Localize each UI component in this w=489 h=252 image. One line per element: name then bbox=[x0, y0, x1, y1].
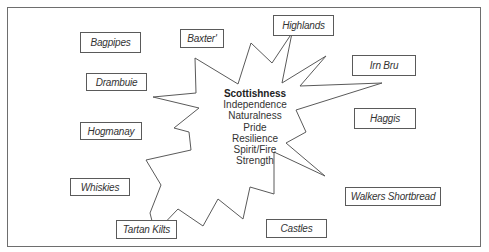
concept-label: Castles bbox=[281, 223, 313, 234]
concept-box-highlands: Highlands bbox=[273, 15, 334, 36]
attribute-spirit-fire: Spirit/Fire bbox=[200, 144, 310, 155]
concept-label: Bagpipes bbox=[90, 37, 130, 48]
concept-label: Haggis bbox=[370, 113, 400, 124]
attribute-pride: Pride bbox=[200, 122, 310, 133]
concept-label: Hogmanay bbox=[88, 126, 135, 137]
concept-box-baxter: Baxter' bbox=[180, 29, 224, 48]
attribute-strength: Strength bbox=[200, 155, 310, 166]
concept-label: Baxter' bbox=[187, 33, 216, 44]
concept-box-bagpipes: Bagpipes bbox=[80, 32, 141, 53]
concept-label: Whiskies bbox=[81, 182, 119, 193]
attribute-independence: Independence bbox=[200, 99, 310, 110]
concept-box-whiskies: Whiskies bbox=[70, 178, 130, 196]
concept-box-tartan-kilts: Tartan Kilts bbox=[116, 220, 177, 239]
central-title: Scottishness bbox=[200, 88, 310, 99]
concept-label: Walkers Shortbread bbox=[351, 191, 436, 202]
concept-box-irn-bru: Irn Bru bbox=[352, 55, 416, 76]
central-concept: Scottishness Independence Naturalness Pr… bbox=[200, 88, 310, 166]
attribute-naturalness: Naturalness bbox=[200, 110, 310, 121]
concept-box-haggis: Haggis bbox=[354, 108, 416, 129]
concept-box-drambuie: Drambuie bbox=[86, 73, 147, 91]
concept-label: Irn Bru bbox=[370, 60, 399, 71]
attribute-resilience: Resilience bbox=[200, 133, 310, 144]
concept-label: Highlands bbox=[282, 20, 325, 31]
concept-box-hogmanay: Hogmanay bbox=[80, 122, 142, 140]
concept-box-walkers-shortbread: Walkers Shortbread bbox=[345, 187, 441, 206]
concept-box-castles: Castles bbox=[266, 219, 327, 238]
concept-label: Drambuie bbox=[96, 77, 138, 88]
concept-label: Tartan Kilts bbox=[123, 224, 170, 235]
